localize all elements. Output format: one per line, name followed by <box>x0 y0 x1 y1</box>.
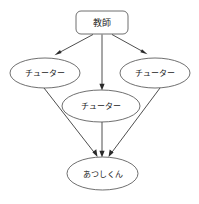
node-group: 教師 チューター チューター チューター あつしくん <box>10 11 190 190</box>
node-tutor-left[interactable]: チューター <box>10 58 80 88</box>
edge-teacher-to-tutor-left <box>55 35 94 56</box>
node-student-label: あつしくん <box>83 170 123 179</box>
edge-teacher-to-tutor-right <box>112 35 148 55</box>
edge-teacher-to-tutor-center <box>99 35 104 91</box>
node-tutor-center[interactable]: チューター <box>62 90 140 122</box>
node-tutor-right-label: チューター <box>135 69 175 78</box>
arrowhead-teacher-tutor-center <box>99 84 104 91</box>
arrowhead-teacher-tutor-right <box>140 49 147 54</box>
arrowhead-teacher-tutor-left <box>55 50 62 55</box>
node-student[interactable]: あつしくん <box>67 157 138 190</box>
node-tutor-right[interactable]: チューター <box>120 58 190 88</box>
node-tutor-center-label: チューター <box>81 102 121 111</box>
node-teacher-label: 教師 <box>93 17 111 28</box>
edge-tutor-center-to-student <box>99 122 104 158</box>
edge-line-teacher-tutor-left <box>58 35 94 54</box>
edge-line-teacher-tutor-right <box>112 35 145 53</box>
node-teacher[interactable]: 教師 <box>76 11 128 34</box>
diagram-canvas: 教師 チューター チューター チューター あつしくん <box>0 0 199 204</box>
node-tutor-left-label: チューター <box>25 69 65 78</box>
graph-svg: 教師 チューター チューター チューター あつしくん <box>0 0 199 204</box>
arrowhead-tutor-center-student <box>99 151 104 158</box>
